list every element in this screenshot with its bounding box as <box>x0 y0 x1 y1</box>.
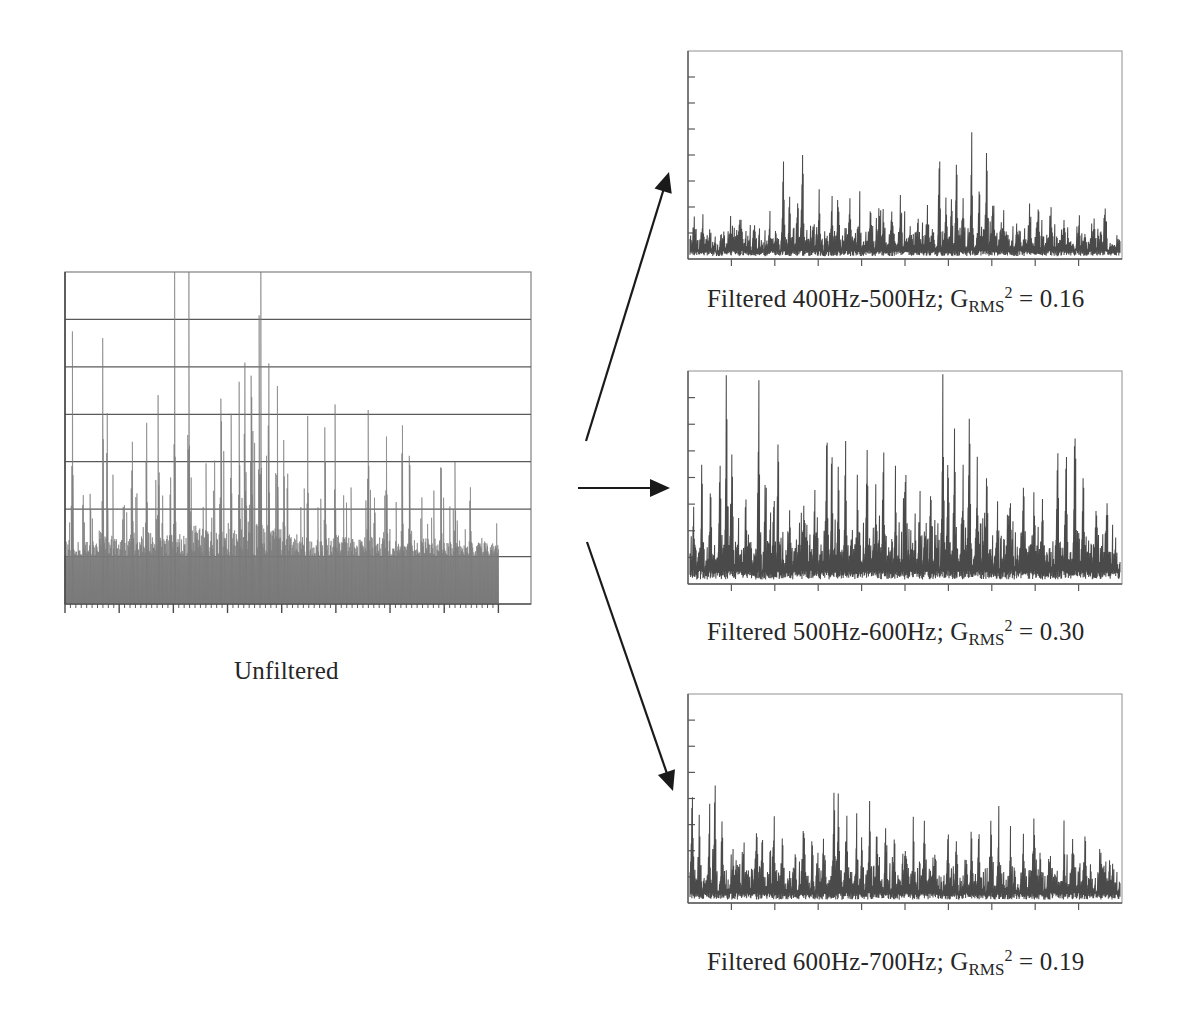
band1-chart <box>684 49 1124 269</box>
band3-caption-prefix: Filtered 600Hz-700Hz; G <box>707 948 969 975</box>
band3-caption-value: = 0.19 <box>1019 948 1084 975</box>
unfiltered-waveform <box>65 272 498 604</box>
filtered_400_500-plot <box>684 49 1124 269</box>
band1-caption-prefix: Filtered 400Hz-500Hz; G <box>707 285 969 312</box>
band2-caption-subscript: RMS <box>969 630 1005 649</box>
arrow-to-band2-head <box>650 479 670 497</box>
band1-caption-superscript: 2 <box>1004 284 1012 301</box>
arrow-to-band2 <box>578 479 670 497</box>
arrow-to-band3-head <box>658 769 675 791</box>
unfiltered-plot <box>62 271 532 621</box>
x-axis-ticks <box>65 604 498 613</box>
arrow-to-band1 <box>586 172 672 441</box>
band3-caption-superscript: 2 <box>1004 947 1012 964</box>
band1-caption-subscript: RMS <box>969 297 1005 316</box>
gridlines <box>65 319 531 556</box>
unfiltered-caption-text: Unfiltered <box>234 657 339 684</box>
filtered_600_700-plot <box>684 692 1124 913</box>
x-axis-ticks <box>731 584 1078 591</box>
band2-chart <box>684 369 1124 594</box>
filtered_500_600-plot <box>684 369 1124 594</box>
x-axis-ticks <box>731 259 1078 266</box>
band2-caption: Filtered 500Hz-600Hz; GRMS2 = 0.30 <box>707 618 1084 646</box>
band1-caption-value: = 0.16 <box>1019 285 1084 312</box>
band2-caption-value: = 0.30 <box>1019 618 1084 645</box>
figure-root: Unfiltered Filtered 400Hz-500Hz; GRMS2 =… <box>0 0 1188 1014</box>
arrow-to-band1-head <box>655 172 672 194</box>
band3-chart <box>684 692 1124 913</box>
arrow-to-band3 <box>587 542 675 791</box>
band2-caption-prefix: Filtered 500Hz-600Hz; G <box>707 618 969 645</box>
band3-caption: Filtered 600Hz-700Hz; GRMS2 = 0.19 <box>707 948 1084 976</box>
band1-caption: Filtered 400Hz-500Hz; GRMS2 = 0.16 <box>707 285 1084 313</box>
x-axis-ticks <box>731 903 1078 910</box>
band2-caption-superscript: 2 <box>1004 617 1012 634</box>
band3-caption-subscript: RMS <box>969 960 1005 979</box>
unfiltered-caption: Unfiltered <box>234 657 339 685</box>
unfiltered-chart <box>62 271 532 621</box>
